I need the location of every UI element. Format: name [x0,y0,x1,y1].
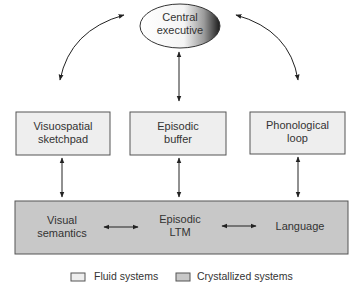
central-executive-line1: Central [140,11,220,24]
visuospatial-sketchpad-label: Visuospatial sketchpad [16,120,110,146]
label-line2: buffer [130,133,226,146]
episodic-ltm-label: Episodic LTM [145,213,215,239]
central-executive-line2: executive [140,24,220,37]
label-line1: Episodic [145,213,215,226]
language-label: Language [265,220,335,233]
label-line1: Episodic [130,120,226,133]
diagram-canvas [0,0,361,294]
label-line2: sketchpad [16,133,110,146]
label-line1: Phonological [250,119,345,132]
label-line1: Visual [30,214,94,227]
legend-fluid-label: Fluid systems [94,270,158,282]
visual-semantics-label: Visual semantics [30,214,94,240]
label-line1: Language [265,220,335,233]
arrow-central-to-sketchpad [60,15,124,80]
episodic-buffer-label: Episodic buffer [130,120,226,146]
label-line2: semantics [30,227,94,240]
label-line2: LTM [145,226,215,239]
phonological-loop-label: Phonological loop [250,119,345,145]
arrow-central-to-loop [236,15,298,80]
legend-crystallized-label: Crystallized systems [197,270,293,282]
label-line1: Visuospatial [16,120,110,133]
label-line2: loop [250,132,345,145]
legend-fluid-swatch [71,273,85,281]
legend-crystallized-swatch [176,273,190,281]
central-executive-label: Central executive [140,11,220,37]
